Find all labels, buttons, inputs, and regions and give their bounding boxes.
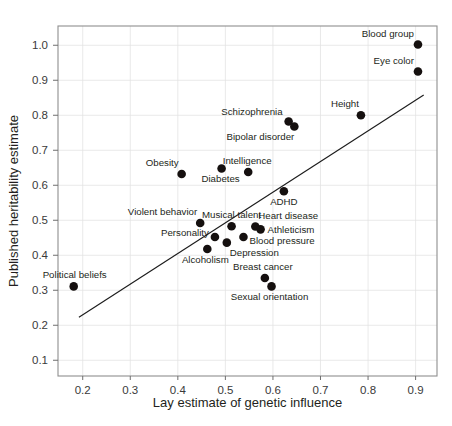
y-tick-label: 0.1 [32,354,48,366]
data-point-label: Intelligence [223,155,272,166]
plot-area-frame [58,26,437,376]
x-tick-label: 0.3 [122,384,138,396]
plot-frame-layer [58,26,437,376]
data-point-label: Diabetes [201,173,239,184]
data-point[interactable] [261,274,270,283]
y-tick-label: 0.9 [32,74,48,86]
x-tick-label: 0.2 [75,384,91,396]
data-point-label: Eye color [374,55,415,66]
data-point[interactable] [239,233,248,242]
data-point[interactable] [211,233,220,242]
data-point-label: Sexual orientation [231,291,309,302]
data-point[interactable] [290,122,299,131]
data-point[interactable] [69,282,78,291]
y-tick-label: 0.3 [32,284,48,296]
data-point[interactable] [414,40,423,49]
x-tick-label: 0.8 [360,384,376,396]
y-tick-label: 0.8 [32,109,48,121]
y-tick-label: 0.4 [32,249,49,261]
point-labels-layer: Blood groupEye colorHeightSchizophreniaB… [43,28,415,303]
data-point[interactable] [227,222,236,231]
data-point-label: Blood group [362,28,414,39]
data-point[interactable] [244,168,253,177]
data-point-label: Breast cancer [233,261,294,272]
data-point[interactable] [414,67,423,76]
data-point-label: Athleticism [268,224,315,235]
data-point-label: Alcoholism [182,254,229,265]
data-point-label: Schizophrenia [221,106,283,117]
gridlines-layer [58,26,437,376]
data-point-label: Blood pressure [249,235,314,246]
data-point-label: Bipolar disorder [226,131,295,142]
x-tick-label: 0.9 [408,384,424,396]
data-point[interactable] [203,245,212,254]
data-point[interactable] [177,170,186,179]
y-tick-label: 0.6 [32,179,48,191]
y-tick-label: 0.5 [32,214,48,226]
data-point-label: Height [331,98,359,109]
data-point[interactable] [267,282,276,291]
data-point-label: Musical talent [202,209,262,220]
data-point-label: Personality [161,227,209,238]
data-point-label: Heart disease [258,210,318,221]
y-tick-label: 1.0 [32,39,48,51]
figure-container: 0.20.30.40.50.60.70.80.90.10.20.30.40.50… [0,0,452,426]
data-point-label: Obesity [146,157,179,168]
data-point-label: Depression [230,247,279,258]
y-axis-title: Published heritability estimate [6,115,21,287]
data-point[interactable] [256,225,265,234]
data-point-label: Violent behavior [128,206,198,217]
data-point-label: Political beliefs [43,269,107,280]
data-point[interactable] [357,111,366,120]
data-point[interactable] [280,187,289,196]
scatter-plot: 0.20.30.40.50.60.70.80.90.10.20.30.40.50… [0,0,452,426]
y-tick-label: 0.2 [32,319,48,331]
y-tick-label: 0.7 [32,144,48,156]
x-axis-title: Lay estimate of genetic influence [153,395,342,410]
data-point-label: ADHD [270,196,297,207]
